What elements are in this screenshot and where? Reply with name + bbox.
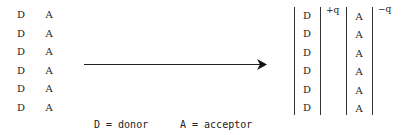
acceptor-label: A	[354, 67, 364, 77]
donor-label: D	[302, 103, 312, 113]
donor-layer-right-boundary	[320, 7, 321, 115]
acceptor-label: A	[44, 10, 54, 20]
donor-label: D	[302, 29, 312, 39]
donor-label: D	[16, 84, 26, 94]
acceptor-layer-right-boundary	[372, 7, 373, 115]
donor-label: D	[302, 66, 312, 76]
acceptor-label: A	[354, 104, 364, 114]
donor-label: D	[16, 47, 26, 57]
donor-label: D	[302, 85, 312, 95]
acceptor-layer-left-boundary	[346, 7, 347, 115]
acceptor-label: A	[44, 47, 54, 57]
acceptor-label: A	[44, 29, 54, 39]
donor-label: D	[16, 66, 26, 76]
acceptor-label: A	[354, 12, 364, 22]
arrow-head-icon	[256, 58, 268, 71]
legend-acceptor: A = acceptor	[180, 119, 252, 131]
legend-donor: D = donor	[94, 119, 148, 131]
acceptor-label: A	[354, 30, 364, 40]
arrow-shaft	[84, 64, 260, 65]
acceptor-label: A	[44, 66, 54, 76]
donor-label: D	[16, 29, 26, 39]
donor-label: D	[16, 103, 26, 113]
donor-layer-left-boundary	[294, 7, 295, 115]
acceptor-charge-label: −q	[378, 5, 391, 14]
acceptor-label: A	[354, 49, 364, 59]
acceptor-label: A	[354, 86, 364, 96]
donor-label: D	[302, 11, 312, 21]
donor-label: D	[302, 48, 312, 58]
donor-label: D	[16, 10, 26, 20]
acceptor-label: A	[44, 103, 54, 113]
donor-charge-label: +q	[326, 6, 339, 15]
acceptor-label: A	[44, 84, 54, 94]
